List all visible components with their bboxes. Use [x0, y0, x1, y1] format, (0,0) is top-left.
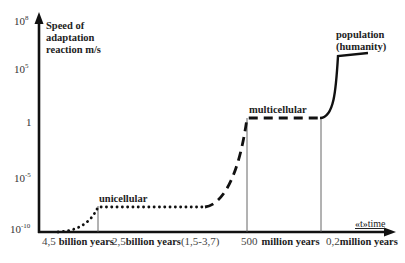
y-tick-1e8: 108: [14, 14, 29, 27]
y-axis: [35, 12, 44, 233]
y-axis-arrow-icon: [35, 12, 44, 24]
y-tick-labels: 108 105 1 10-5 10-10: [10, 14, 32, 235]
label-unicellular: unicellular: [99, 193, 148, 204]
x-tick-4-5-billion: 4,5billion years: [42, 235, 114, 247]
svg-text:Speed of: Speed of: [46, 20, 85, 31]
curves: [58, 53, 368, 232]
evolution-adaptation-chart: 108 105 1 10-5 10-10 Speed of adaptation…: [0, 0, 405, 263]
x-tick-labels: 4,5billion years 2,5billion years(1,5-3,…: [42, 235, 398, 248]
x-axis-label: «t»time: [355, 218, 386, 229]
label-humanity: (humanity): [336, 41, 387, 53]
y-tick-1e-10: 10-10: [10, 222, 31, 235]
svg-text:adaptation: adaptation: [46, 32, 95, 43]
series-humanity: [320, 53, 368, 118]
series-multicellular: [205, 118, 320, 207]
series-unicellular: [58, 207, 205, 232]
x-tick-500-million: 500million years: [241, 235, 320, 247]
svg-text:reaction m/s: reaction m/s: [46, 44, 101, 55]
y-tick-1: 1: [26, 116, 32, 128]
label-multicellular: multicellular: [249, 104, 307, 115]
stage-markers: [98, 118, 321, 232]
y-tick-1e5: 105: [14, 62, 29, 75]
y-tick-1e-5: 10-5: [14, 171, 31, 184]
label-population: population: [336, 29, 385, 40]
x-tick-0-2-million: 0,2million years: [326, 235, 398, 247]
x-tick-2-5-billion: 2,5billion years(1,5-3,7): [112, 235, 220, 248]
y-axis-label: Speed of adaptation reaction m/s: [46, 20, 101, 55]
